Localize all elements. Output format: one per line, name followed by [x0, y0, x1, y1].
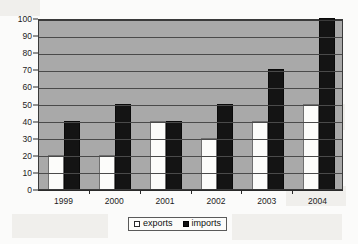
x-axis-tick-label: 2000	[105, 197, 124, 206]
bar-exports-2004	[303, 104, 319, 190]
scan-artifact	[232, 214, 342, 240]
legend-label: imports	[192, 219, 222, 228]
gridline	[39, 88, 342, 89]
scan-artifact	[12, 214, 108, 238]
y-axis-tick-label: 80	[23, 49, 32, 58]
x-axis-tick-mark	[191, 190, 192, 194]
bar-exports-1999	[48, 155, 64, 189]
x-axis-tick-label: 1999	[54, 197, 73, 206]
x-axis-tick-mark	[140, 190, 141, 194]
gridline	[39, 156, 342, 157]
gridline	[39, 37, 342, 38]
x-axis-tick-mark	[241, 190, 242, 194]
x-axis-tick-label: 2003	[257, 197, 276, 206]
gridline	[39, 122, 342, 123]
bar-chart-figure: 0102030405060708090100 19992000200120022…	[0, 0, 358, 244]
bar-exports-2000	[99, 155, 115, 189]
y-axis-tick-label: 100	[18, 15, 32, 24]
gridline	[39, 139, 342, 140]
y-axis-tick-label: 50	[23, 100, 32, 109]
bar-imports-2001	[166, 121, 182, 189]
y-axis: 0102030405060708090100	[0, 0, 38, 195]
bar-exports-2002	[201, 138, 217, 189]
plot-area	[38, 19, 343, 190]
x-axis: 199920002001200220032004	[38, 190, 343, 212]
x-axis-tick-label: 2001	[156, 197, 175, 206]
bar-imports-2000	[115, 104, 131, 190]
x-axis-tick-mark	[292, 190, 293, 194]
legend-label: exports	[143, 219, 173, 228]
y-axis-tick-label: 20	[23, 152, 32, 161]
chart-legend: exportsimports	[128, 217, 227, 231]
legend-entry-exports: exports	[134, 219, 173, 228]
gridline	[39, 173, 342, 174]
y-axis-tick-label: 0	[27, 186, 32, 195]
gridline	[39, 54, 342, 55]
bar-imports-1999	[64, 121, 80, 189]
gridline	[39, 20, 342, 21]
bar-imports-2002	[217, 104, 233, 190]
y-axis-tick-label: 60	[23, 83, 32, 92]
y-axis-tick-label: 30	[23, 134, 32, 143]
x-axis-tick-label: 2004	[308, 197, 327, 206]
x-axis-tick-label: 2002	[206, 197, 225, 206]
bar-exports-2003	[252, 121, 268, 189]
bar-exports-2001	[150, 121, 166, 189]
legend-entry-imports: imports	[183, 219, 222, 228]
y-axis-tick-label: 10	[23, 169, 32, 178]
white-square-swatch	[134, 221, 140, 227]
y-axis-tick-label: 70	[23, 66, 32, 75]
gridline	[39, 71, 342, 72]
gridline	[39, 105, 342, 106]
y-axis-tick-label: 40	[23, 117, 32, 126]
y-axis-tick-label: 90	[23, 32, 32, 41]
x-axis-tick-mark	[89, 190, 90, 194]
bar-imports-2004	[319, 18, 335, 189]
black-square-swatch	[183, 221, 189, 227]
